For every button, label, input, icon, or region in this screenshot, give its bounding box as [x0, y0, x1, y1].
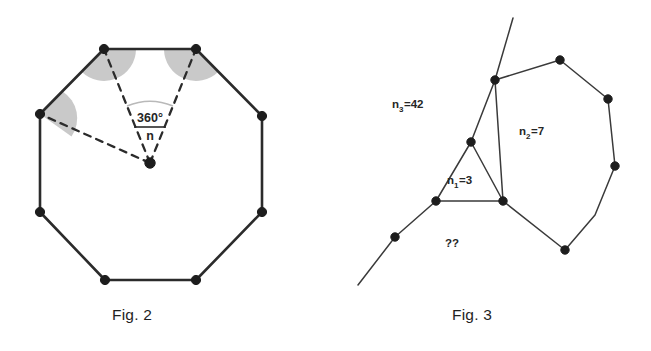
figure-3-diagram: n 3 =42 n 2 =7 n 1 =3 ??: [330, 0, 651, 351]
center-dot: [145, 158, 155, 168]
vertex-dot: [191, 275, 200, 284]
region-label-n1-base: n: [447, 174, 454, 186]
vertex-dot: [100, 275, 109, 284]
ray-upper-right: [495, 18, 513, 80]
vertex-dot: [561, 246, 569, 254]
triangle-outline: [436, 142, 503, 201]
vertex-dot: [99, 44, 108, 53]
vertex-dot: [604, 95, 612, 103]
region-label-n1-value: =3: [459, 174, 472, 186]
edge-junction-to-apex: [471, 80, 495, 142]
region-label-n2: n 2 =7: [519, 125, 544, 141]
vertex-dot-on-ray: [391, 233, 399, 241]
vertex-dot: [257, 207, 266, 216]
region-label-n3-base: n: [392, 98, 399, 110]
vertex-dot-junction: [491, 76, 499, 84]
ray-lower-left: [358, 201, 436, 285]
fraction-denominator: n: [146, 129, 154, 143]
region-label-n3: n 3 =42: [392, 98, 424, 114]
caption-fig-3: Fig. 3: [452, 306, 492, 324]
angle-wedge-left: [40, 91, 77, 136]
figure-2-diagram: 360° n: [0, 0, 330, 351]
octagon-vertex-dots: [35, 44, 266, 284]
figure3-vertex-dots: [391, 56, 619, 254]
vertex-dot: [499, 197, 507, 205]
central-angle-arc: [127, 101, 173, 106]
region-label-unknown: ??: [445, 237, 459, 249]
vertex-dot: [257, 111, 266, 120]
region-label-n3-value: =42: [404, 98, 424, 110]
region-label-n2-base: n: [519, 125, 526, 137]
vertex-dot-apex: [467, 138, 475, 146]
vertex-dot: [35, 207, 44, 216]
vertex-dot: [611, 162, 619, 170]
region-label-n2-value: =7: [531, 125, 544, 137]
rays: [358, 18, 513, 285]
fraction-numerator: 360°: [137, 111, 163, 125]
vertex-dot: [35, 109, 44, 118]
region-label-n1: n 1 =3: [447, 174, 472, 190]
heptagon-outline: [495, 60, 615, 250]
vertex-dot: [191, 44, 200, 53]
region-boundaries: [436, 60, 615, 250]
caption-fig-2: Fig. 2: [112, 306, 152, 324]
vertex-dot: [556, 56, 564, 64]
vertex-dot: [432, 197, 440, 205]
figure-board: 360° n: [0, 0, 651, 351]
